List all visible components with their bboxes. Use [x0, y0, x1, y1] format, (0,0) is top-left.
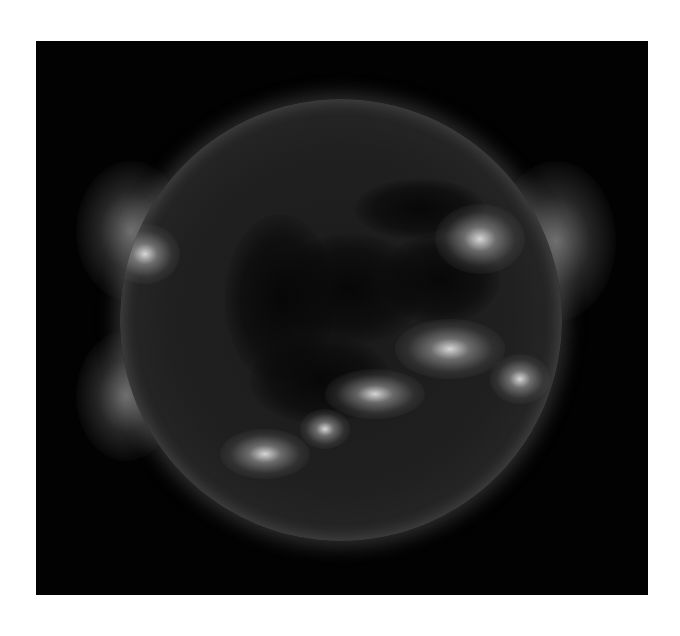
- solar-image-frame: [36, 41, 648, 595]
- active-region: [300, 409, 350, 449]
- active-region: [490, 354, 550, 404]
- active-region: [325, 369, 425, 419]
- active-region: [395, 319, 505, 379]
- active-region: [120, 224, 180, 284]
- solar-disk: [120, 99, 562, 541]
- active-region: [435, 204, 525, 274]
- active-region: [220, 429, 310, 479]
